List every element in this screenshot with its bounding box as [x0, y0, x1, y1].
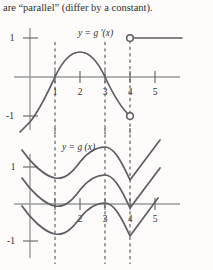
lower-graph-svg: 1 -1 2 3 4 5	[0, 128, 213, 270]
lower-ylabel-1: 1	[11, 162, 16, 172]
lower-ylabel-neg1: -1	[7, 236, 15, 246]
lower-graph-label: y = g (x)	[61, 142, 95, 153]
upper-ylabel-neg1: -1	[6, 111, 14, 121]
open-circle-upper-4-neg1	[127, 113, 134, 120]
figure-caption: are “parallel” (differ by a constant).	[3, 1, 210, 14]
curve-g-prime-arc	[20, 52, 130, 132]
open-circle-upper-4-1	[127, 35, 134, 42]
upper-graph-label: y = g '(x)	[77, 28, 113, 39]
upper-ylabel-1: 1	[10, 33, 15, 43]
upper-xlabel-5: 5	[153, 87, 158, 97]
upper-graph-g-prime: 1 -1 1 2 3 4 5 y = g '(x)	[0, 22, 213, 134]
upper-graph-svg: 1 -1 1 2 3 4 5 y = g '(x)	[0, 22, 213, 134]
lower-graph-g: 1 -1 2 3 4 5	[0, 128, 213, 270]
calculus-figure: are “parallel” (differ by a constant). 1…	[0, 0, 213, 270]
lower-xlabel-5: 5	[153, 214, 158, 224]
curve-g-middle	[22, 168, 160, 208]
upper-xlabel-2: 2	[78, 87, 83, 97]
